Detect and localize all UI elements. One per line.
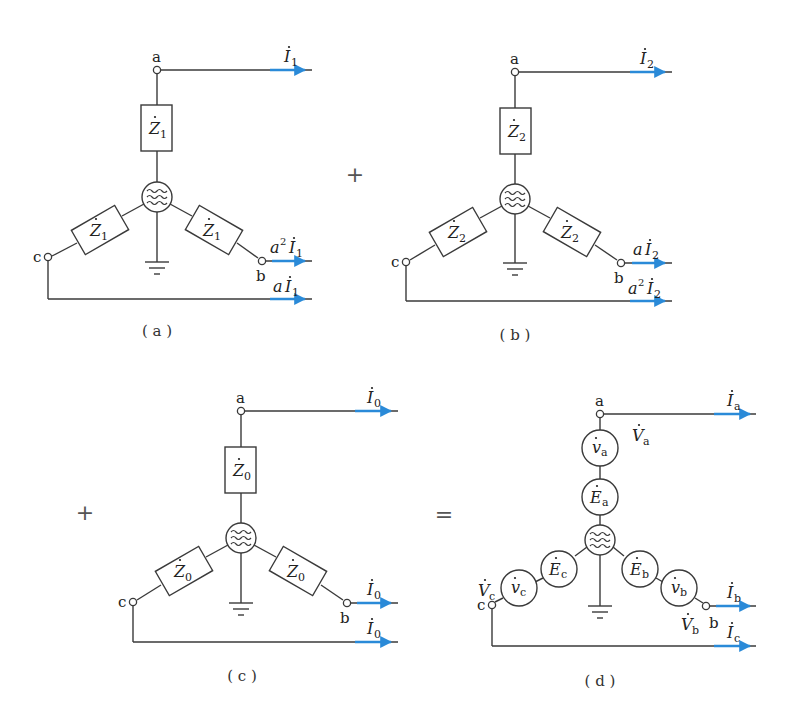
svg-text:2: 2	[654, 288, 661, 301]
svg-text:c: c	[734, 632, 740, 645]
node-label-c: c	[118, 593, 126, 611]
svg-text:2: 2	[652, 249, 659, 262]
current-label-c: a2I2	[628, 277, 661, 301]
svg-text:I: I	[726, 391, 734, 410]
current-label-a: Ia	[726, 390, 741, 413]
svg-text:1: 1	[160, 128, 167, 141]
svg-text:0: 0	[298, 571, 305, 584]
symmetrical-components-diagram: a b c Z1 Z1 Z1 I1 a2I1 aI1 ( a )	[0, 0, 788, 715]
svg-text:I: I	[644, 240, 652, 259]
svg-text:E: E	[629, 560, 642, 579]
svg-text:2: 2	[280, 236, 286, 247]
svg-text:I: I	[284, 277, 292, 296]
svg-text:b: b	[642, 568, 649, 581]
node-label-b: b	[709, 614, 719, 632]
node-label-a: a	[510, 50, 519, 68]
panel-b: a b c Z2 Z2 Z2 I2 aI2 a2I2 ( b )	[391, 48, 672, 344]
caption-b: ( b )	[500, 326, 531, 344]
svg-text:a: a	[734, 400, 741, 413]
svg-text:a: a	[643, 435, 650, 448]
svg-text:a: a	[633, 240, 643, 259]
caption-d: ( d )	[585, 672, 616, 690]
svg-text:I: I	[366, 580, 374, 599]
svg-text:2: 2	[572, 232, 579, 245]
svg-text:a: a	[601, 446, 608, 459]
svg-text:2: 2	[638, 277, 644, 288]
terminal-b	[702, 602, 709, 609]
svg-text:1: 1	[291, 56, 298, 69]
svg-text:2: 2	[519, 131, 526, 144]
svg-text:0: 0	[244, 470, 251, 483]
svg-text:c: c	[520, 586, 526, 599]
svg-text:I: I	[646, 279, 654, 298]
svg-text:2: 2	[459, 232, 466, 245]
ground-icon	[145, 262, 169, 274]
current-label-b: aI2	[633, 239, 659, 262]
ground-icon	[588, 606, 612, 618]
svg-text:I: I	[288, 238, 296, 257]
svg-text:I: I	[639, 49, 647, 68]
current-label-a: I1	[283, 46, 298, 69]
terminal-c	[44, 253, 51, 260]
svg-text:I: I	[366, 388, 374, 407]
svg-text:v: v	[671, 578, 680, 597]
svg-text:0: 0	[374, 589, 381, 602]
terminal-b	[617, 259, 624, 266]
panel-c: a b c Z0 Z0 Z0 I0 I0 I0 ( c )	[118, 387, 398, 685]
plus-operator-2: +	[76, 500, 94, 525]
terminal-a	[596, 410, 603, 417]
svg-text:a: a	[628, 279, 638, 298]
plus-operator-1: +	[346, 162, 364, 187]
terminal-c	[402, 258, 409, 265]
svg-text:a: a	[270, 238, 280, 257]
svg-text:0: 0	[374, 628, 381, 641]
svg-text:v: v	[592, 438, 601, 457]
svg-text:b: b	[692, 624, 699, 637]
svg-text:1: 1	[296, 247, 303, 260]
node-label-c: c	[391, 253, 399, 271]
ground-icon	[503, 263, 527, 275]
svg-text:c: c	[561, 568, 567, 581]
svg-text:2: 2	[647, 58, 654, 71]
current-label-c: Ic	[726, 622, 740, 645]
current-label-b: I0	[366, 579, 381, 602]
terminal-b	[258, 257, 265, 264]
ac-source-icon	[142, 182, 172, 212]
voltage-label-a: Va	[632, 424, 650, 448]
svg-text:I: I	[726, 583, 734, 602]
node-label-a: a	[152, 48, 161, 66]
caption-a: ( a )	[142, 322, 172, 340]
svg-text:1: 1	[101, 230, 108, 243]
current-label-a: I2	[639, 48, 654, 71]
ground-icon	[229, 603, 253, 615]
ac-source-icon	[585, 525, 615, 555]
current-label-c: I0	[366, 618, 381, 641]
current-label-b: Ib	[726, 582, 741, 605]
panel-d: a b c va Ea Ec vc Eb vb Va	[477, 390, 756, 690]
terminal-b	[343, 599, 350, 606]
svg-text:c: c	[489, 590, 495, 603]
svg-text:a: a	[273, 277, 283, 296]
node-label-a: a	[595, 392, 604, 410]
current-label-c: aI1	[273, 276, 299, 299]
svg-text:I: I	[283, 47, 291, 66]
panel-a: a b c Z1 Z1 Z1 I1 a2I1 aI1 ( a )	[33, 46, 312, 340]
svg-text:I: I	[366, 619, 374, 638]
svg-text:1: 1	[292, 286, 299, 299]
svg-text:1: 1	[214, 230, 221, 243]
voltage-label-c: Vc	[478, 579, 495, 603]
terminal-a	[237, 407, 244, 414]
svg-text:b: b	[680, 586, 687, 599]
equals-operator: =	[435, 502, 453, 527]
svg-text:a: a	[602, 496, 609, 509]
current-label-b: a2I1	[270, 236, 303, 260]
node-label-b: b	[614, 269, 624, 287]
terminal-c	[129, 598, 136, 605]
svg-text:b: b	[734, 592, 741, 605]
ac-source-icon	[500, 184, 530, 214]
terminal-a	[153, 66, 160, 73]
node-label-c: c	[33, 248, 41, 266]
svg-text:E: E	[589, 488, 602, 507]
svg-text:0: 0	[374, 397, 381, 410]
svg-text:0: 0	[185, 571, 192, 584]
